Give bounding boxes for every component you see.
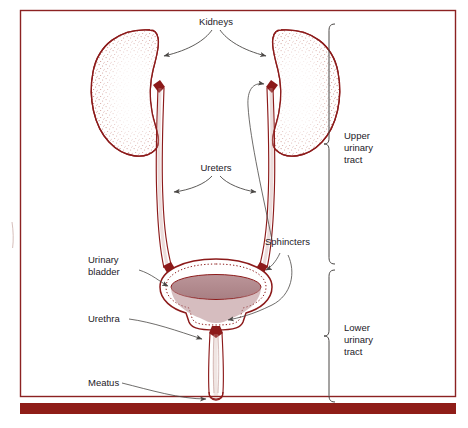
label-upper-tract-line2: urinary xyxy=(344,142,373,153)
label-urethra: Urethra xyxy=(88,313,120,324)
label-upper-tract-line3: tract xyxy=(344,154,363,165)
label-lower-tract-line2: urinary xyxy=(344,334,373,345)
figure-background xyxy=(0,0,468,428)
label-urinary-bladder-line1: Urinary xyxy=(88,254,119,265)
label-kidneys: Kidneys xyxy=(199,16,233,27)
label-urinary-bladder-line2: bladder xyxy=(88,266,120,277)
label-ureters: Ureters xyxy=(200,162,231,173)
label-lower-tract-line3: tract xyxy=(344,346,363,357)
label-sphincters: Sphincters xyxy=(265,236,310,247)
urinary-tract-figure: Kidneys Ureters Sphincters Urinary bladd… xyxy=(0,0,468,428)
label-upper-tract-line1: Upper xyxy=(344,130,370,141)
label-lower-tract-line1: Lower xyxy=(344,322,370,333)
label-meatus: Meatus xyxy=(88,377,119,388)
bottom-accent-bar xyxy=(20,403,456,414)
